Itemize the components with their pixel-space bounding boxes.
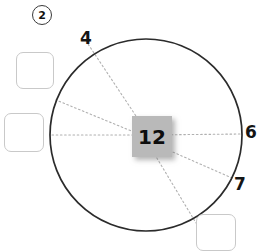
answer-box-bottom-right[interactable] xyxy=(196,214,236,251)
label-4: 4 xyxy=(80,30,92,47)
label-6: 6 xyxy=(245,124,257,141)
label-7: 7 xyxy=(234,176,246,193)
answer-box-left[interactable] xyxy=(4,113,44,152)
answer-box-upper-left[interactable] xyxy=(16,52,54,89)
center-value-chip: 12 xyxy=(132,116,172,157)
worksheet-page: 2 4 6 7 12 xyxy=(0,0,261,251)
